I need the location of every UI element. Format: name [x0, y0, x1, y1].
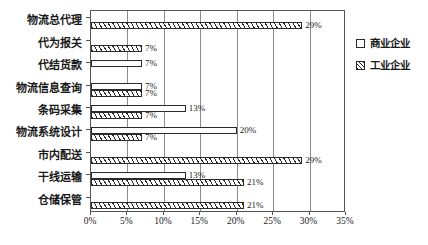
legend-label: 商业企业 — [370, 38, 410, 49]
x-axis-tick — [272, 212, 273, 215]
bar-line: 7% — [91, 83, 344, 90]
bar-row: 29% — [91, 11, 344, 33]
bar-line: 7% — [91, 45, 344, 52]
bar-row: 29% — [91, 146, 344, 168]
legend-swatch-icon — [356, 39, 365, 48]
bar-line: 7% — [91, 134, 344, 141]
chart-legend: 商业企业工业企业 — [356, 38, 426, 82]
x-axis-label: 30% — [300, 216, 317, 226]
bar-工业企业 — [91, 157, 302, 164]
bar-工业企业 — [91, 179, 244, 186]
x-axis-label: 15% — [191, 216, 208, 226]
y-axis-label: 代结货款 — [38, 60, 82, 71]
y-axis-category-labels: 物流总代理代为报关代结货款物流信息查询条码采集物流系统设计市内配送干线运输仓储保… — [0, 10, 86, 212]
bar-value-label: 29% — [305, 21, 322, 30]
bar-value-label: 21% — [247, 178, 264, 187]
bar-line: 21% — [91, 202, 344, 209]
bar-row: 13%21% — [91, 168, 344, 190]
bar-商业企业 — [91, 172, 186, 179]
y-axis-label: 物流系统设计 — [16, 127, 82, 138]
bar-row: 7% — [91, 33, 344, 55]
y-axis-label: 条码采集 — [38, 105, 82, 116]
bar-value-label: 7% — [145, 44, 157, 53]
bar-value-label: 7% — [145, 89, 157, 98]
x-axis-label: 10% — [154, 216, 171, 226]
bar-商业企业 — [91, 127, 237, 134]
plot-area: 29%7%7%7%7%13%7%20%7%29%13%21%21% — [90, 10, 345, 212]
bar-line — [91, 67, 344, 74]
bar-工业企业 — [91, 22, 302, 29]
bar-line: 21% — [91, 179, 344, 186]
bar-工业企业 — [91, 202, 244, 209]
bar-value-label: 7% — [145, 133, 157, 142]
bar-line: 7% — [91, 90, 344, 97]
y-axis-label: 物流信息查询 — [16, 83, 82, 94]
x-axis-tick — [126, 212, 127, 215]
bar-value-label: 21% — [247, 201, 264, 210]
bar-line: 7% — [91, 60, 344, 67]
bar-工业企业 — [91, 112, 142, 119]
x-axis-tick — [90, 212, 91, 215]
bar-line: 13% — [91, 172, 344, 179]
legend-item: 商业企业 — [356, 38, 426, 49]
bar-row: 13%7% — [91, 101, 344, 123]
bar-工业企业 — [91, 45, 142, 52]
bar-商业企业 — [91, 60, 142, 67]
x-axis-label: 25% — [263, 216, 280, 226]
bar-row: 20%7% — [91, 123, 344, 145]
bar-line: 20% — [91, 127, 344, 134]
bar-line: 13% — [91, 105, 344, 112]
bar-工业企业 — [91, 90, 142, 97]
x-axis-label: 0% — [84, 216, 97, 226]
bar-line — [91, 38, 344, 45]
x-axis-label: 35% — [336, 216, 353, 226]
bar-工业企业 — [91, 134, 142, 141]
bar-line: 29% — [91, 157, 344, 164]
x-axis-tick — [163, 212, 164, 215]
legend-item: 工业企业 — [356, 60, 426, 71]
y-axis-label: 代为报关 — [38, 38, 82, 49]
x-axis-tick — [309, 212, 310, 215]
bar-row: 7% — [91, 56, 344, 78]
y-axis-label: 市内配送 — [38, 150, 82, 161]
legend-swatch-icon — [356, 61, 365, 70]
y-axis-label: 干线运输 — [38, 172, 82, 183]
y-axis-label: 物流总代理 — [27, 15, 82, 26]
y-axis-label: 仓储保管 — [38, 195, 82, 206]
x-axis-tick — [236, 212, 237, 215]
bar-value-label: 7% — [145, 111, 157, 120]
chart-container: 物流总代理代为报关代结货款物流信息查询条码采集物流系统设计市内配送干线运输仓储保… — [0, 0, 428, 245]
bar-line: 7% — [91, 112, 344, 119]
bar-商业企业 — [91, 83, 142, 90]
legend-label: 工业企业 — [370, 60, 410, 71]
x-axis-tick — [199, 212, 200, 215]
bar-rows: 29%7%7%7%7%13%7%20%7%29%13%21%21% — [91, 11, 344, 211]
bar-row: 7%7% — [91, 78, 344, 100]
bar-line: 29% — [91, 22, 344, 29]
x-axis-label: 20% — [227, 216, 244, 226]
x-axis: 0%5%10%15%20%25%30%35% — [90, 212, 345, 230]
bar-row: 21% — [91, 191, 344, 213]
x-axis-label: 5% — [120, 216, 133, 226]
bar-商业企业 — [91, 105, 186, 112]
x-axis-tick — [345, 212, 346, 215]
bar-value-label: 29% — [305, 156, 322, 165]
bar-line — [91, 195, 344, 202]
